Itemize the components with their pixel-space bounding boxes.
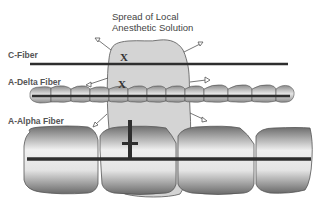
a-delta-fiber	[30, 85, 294, 103]
c-fiber-block-mark: X	[120, 51, 128, 63]
a-delta-fiber-block-mark: X	[118, 78, 126, 90]
label-a-delta-fiber: A-Delta Fiber	[8, 77, 61, 87]
label-c-fiber: C-Fiber	[8, 50, 38, 60]
nerve-fiber-diagram: X X	[0, 0, 321, 207]
label-a-alpha-fiber: A-Alpha Fiber	[8, 116, 64, 126]
